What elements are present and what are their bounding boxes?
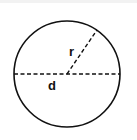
radius-label: r (69, 44, 74, 59)
diameter-label: d (48, 78, 56, 93)
circle-diagram: r d (0, 0, 137, 140)
